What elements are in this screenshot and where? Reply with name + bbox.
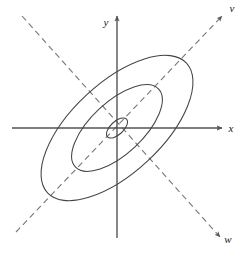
ellipse-axes-diagram: x y v w bbox=[0, 0, 244, 253]
figure-container: x y v w bbox=[0, 0, 244, 253]
axis-label-v: v bbox=[230, 2, 235, 14]
axis-label-x: x bbox=[228, 122, 234, 134]
axis-label-y: y bbox=[103, 16, 109, 28]
axis-label-w: w bbox=[224, 233, 232, 245]
